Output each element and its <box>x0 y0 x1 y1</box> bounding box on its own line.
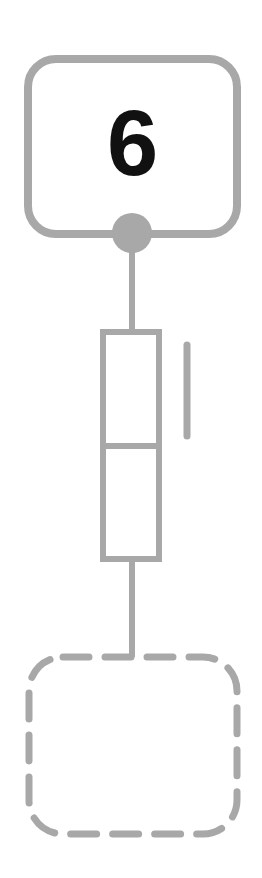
box-number-label: 6 <box>24 55 241 238</box>
dashed-placeholder-box <box>29 657 237 834</box>
